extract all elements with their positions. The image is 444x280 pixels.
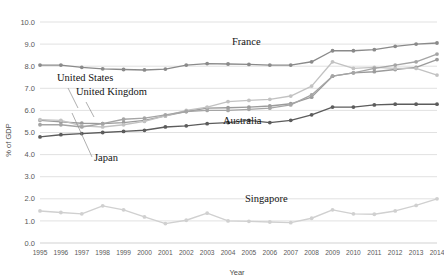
y-tick-label: 4.0	[25, 150, 35, 159]
data-point	[289, 63, 293, 67]
data-point	[226, 62, 230, 66]
data-point	[80, 125, 84, 129]
data-point	[268, 106, 272, 110]
data-point	[435, 58, 439, 62]
annotation-australia: Australia	[223, 115, 262, 126]
y-tick-label: 8.0	[25, 62, 35, 71]
data-point	[414, 60, 418, 64]
data-point	[143, 120, 147, 124]
data-point	[163, 67, 167, 71]
series-line	[40, 199, 437, 224]
data-point	[435, 102, 439, 106]
data-point	[352, 67, 356, 71]
y-tick-label: 5.0	[25, 128, 35, 137]
y-tick-label: 1.0	[25, 217, 35, 226]
data-point	[38, 118, 42, 122]
series-annotations: FranceUnited StatesUnited KingdomJapanAu…	[57, 36, 288, 204]
y-tick-label: 9.0	[25, 40, 35, 49]
data-point	[372, 212, 376, 216]
x-tick-label: 2003	[200, 249, 215, 256]
data-point	[310, 60, 314, 64]
y-tick-label: 3.0	[25, 172, 35, 181]
x-tick-label: 2009	[325, 249, 340, 256]
data-point	[268, 63, 272, 67]
data-point	[122, 117, 126, 121]
data-point	[59, 133, 63, 137]
data-point	[122, 68, 126, 72]
x-tick-label: 1996	[54, 249, 69, 256]
x-tick-label: 1999	[116, 249, 131, 256]
data-point	[59, 118, 63, 122]
data-point	[226, 109, 230, 113]
data-point	[268, 97, 272, 101]
data-point	[205, 109, 209, 113]
x-tick-label: 2007	[283, 249, 298, 256]
x-tick-label: 2010	[346, 249, 361, 256]
x-axis-tick-labels: 1995199619971998199920002001200220032004…	[33, 249, 444, 256]
data-point	[205, 122, 209, 126]
data-point	[122, 123, 126, 127]
data-point	[122, 208, 126, 212]
data-point	[310, 84, 314, 88]
data-point	[352, 71, 356, 75]
x-tick-label: 2005	[242, 249, 257, 256]
x-tick-label: 1997	[74, 249, 89, 256]
data-point	[163, 222, 167, 226]
data-point	[393, 44, 397, 48]
y-tick-label: 7.0	[25, 84, 35, 93]
data-point	[414, 42, 418, 46]
data-point	[163, 113, 167, 117]
data-point	[205, 105, 209, 109]
data-point	[247, 99, 251, 103]
data-point	[80, 212, 84, 216]
data-point	[289, 103, 293, 107]
data-point	[414, 102, 418, 106]
x-tick-label: 2006	[263, 249, 278, 256]
data-point	[435, 41, 439, 45]
data-point	[247, 219, 251, 223]
data-point	[226, 219, 230, 223]
data-point	[38, 135, 42, 139]
data-point	[101, 67, 105, 71]
data-point	[310, 113, 314, 117]
x-tick-label: 2012	[388, 249, 403, 256]
data-point	[435, 197, 439, 201]
data-point	[352, 49, 356, 53]
y-tick-label: 10.0	[20, 18, 35, 27]
data-point	[247, 107, 251, 111]
data-point	[393, 63, 397, 67]
x-tick-label: 2001	[158, 249, 173, 256]
data-point	[59, 211, 63, 215]
data-point	[352, 105, 356, 109]
annotation-united-kingdom: United Kingdom	[76, 86, 147, 97]
data-point	[372, 70, 376, 74]
data-point	[184, 110, 188, 114]
y-axis-title: % of GDP	[4, 123, 13, 156]
annotation-japan: Japan	[94, 152, 119, 163]
data-point	[38, 123, 42, 127]
data-point	[59, 63, 63, 67]
data-point	[184, 63, 188, 67]
data-point	[310, 216, 314, 220]
data-point	[393, 102, 397, 106]
line-chart: 0.01.02.03.04.05.06.07.08.09.010.0 19951…	[0, 0, 444, 280]
data-point	[372, 48, 376, 52]
x-tick-label: 2002	[179, 249, 194, 256]
data-point	[101, 131, 105, 135]
data-point	[184, 218, 188, 222]
data-point	[80, 65, 84, 69]
data-point	[331, 49, 335, 53]
data-point	[143, 68, 147, 72]
data-point	[205, 211, 209, 215]
data-point	[414, 67, 418, 71]
data-point	[289, 221, 293, 225]
data-point	[143, 215, 147, 219]
x-tick-label: 2004	[221, 249, 236, 256]
data-point	[226, 100, 230, 104]
data-point	[143, 116, 147, 120]
x-tick-label: 2008	[304, 249, 319, 256]
data-series-layer	[38, 41, 439, 225]
x-axis-title: Year	[229, 268, 245, 277]
data-point	[289, 94, 293, 98]
data-point	[38, 63, 42, 67]
